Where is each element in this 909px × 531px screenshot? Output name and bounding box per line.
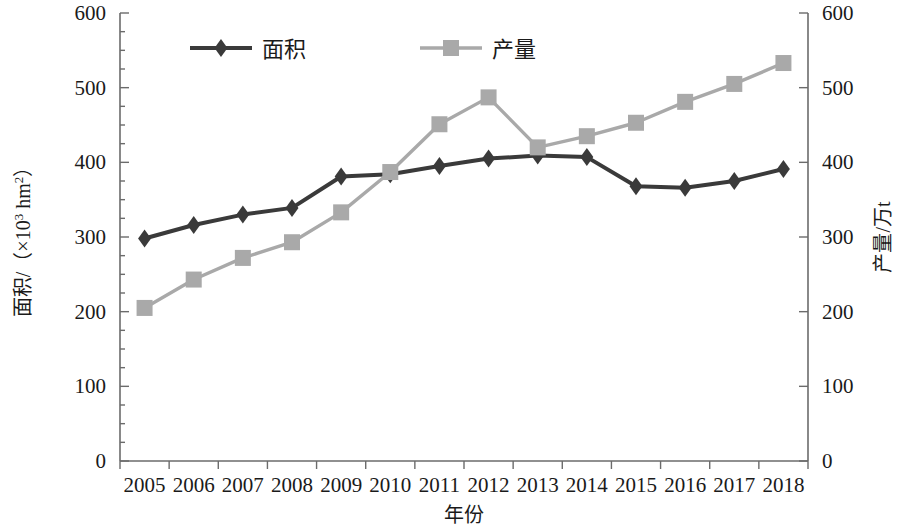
line-chart: 0100200300400500600 0100200300400500600 … [0,0,909,531]
y-tick-label: 500 [75,76,107,100]
legend-label: 面积 [262,37,306,62]
chart-legend: 面积产量 [190,37,536,62]
y-axis-title: 面积/（×103 hm2） [11,157,35,317]
y2-tick-label: 400 [822,150,854,174]
x-tick-label: 2018 [762,473,804,497]
data-point-marker [431,116,447,132]
legend-square-icon [443,40,459,56]
y2-tick-label: 600 [822,1,854,25]
data-point-marker [775,55,791,71]
x-tick-label: 2013 [517,473,559,497]
data-point-marker [482,150,495,168]
y-axis-title-close: ） [12,157,34,177]
legend-label: 产量 [492,37,536,62]
x-tick-label: 2015 [615,473,657,497]
series-line [145,156,784,239]
y-axis-title-unit: hm [12,183,34,214]
x-tick-label: 2017 [713,473,755,497]
y-tick-label: 400 [75,150,107,174]
data-point-marker [580,148,593,166]
x-tick-label: 2012 [468,473,510,497]
axis-titles: 年份面积/（×103 hm2）产量/万t [11,157,895,526]
data-point-marker [777,160,790,178]
data-point-marker [679,179,692,197]
data-point-marker [137,300,153,316]
data-series [137,55,792,316]
data-point-marker [138,229,151,247]
data-point-marker [530,139,546,155]
series-面积 [138,147,790,248]
data-point-marker [335,168,348,186]
y-tick-label: 200 [75,300,107,324]
x-axis-ticks: 2005200620072008200920102011201220132014… [120,461,808,497]
data-point-marker [677,94,693,110]
x-tick-label: 2006 [173,473,215,497]
x-tick-label: 2010 [369,473,411,497]
y-tick-label: 300 [75,225,107,249]
data-point-marker [433,157,446,175]
x-axis-title: 年份 [444,504,484,526]
x-tick-label: 2007 [222,473,264,497]
y-tick-label: 100 [75,374,107,398]
x-tick-label: 2016 [664,473,706,497]
x-tick-label: 2011 [419,473,460,497]
x-tick-label: 2008 [271,473,313,497]
y2-axis-title-group: 产量/万t [872,201,894,273]
data-point-marker [186,272,202,288]
y2-axis-title: 产量/万t [872,201,894,273]
data-point-marker [333,204,349,220]
x-tick-label: 2005 [124,473,166,497]
y-axis-ticks: 0100200300400500600 [75,1,130,473]
chart-container: 0100200300400500600 0100200300400500600 … [0,0,909,531]
data-point-marker [187,216,200,234]
data-point-marker [579,128,595,144]
axes [120,13,808,461]
data-point-marker [628,115,644,131]
data-point-marker [382,164,398,180]
y2-tick-label: 300 [822,225,854,249]
y-axis-title-group: 面积/（×103 hm2） [11,157,35,317]
y2-axis-ticks: 0100200300400500600 [799,1,854,473]
data-point-marker [481,89,497,105]
legend-diamond-icon [215,39,228,57]
x-tick-label: 2009 [320,473,362,497]
data-point-marker [726,76,742,92]
y2-tick-label: 200 [822,300,854,324]
x-tick-label: 2014 [566,473,609,497]
y2-tick-label: 0 [822,449,833,473]
data-point-marker [728,172,741,190]
y-tick-label: 600 [75,1,107,25]
data-point-marker [236,206,249,224]
y-tick-label: 0 [96,449,107,473]
y2-tick-label: 100 [822,374,854,398]
data-point-marker [630,177,643,195]
data-point-marker [235,250,251,266]
data-point-marker [286,199,299,217]
data-point-marker [284,234,300,250]
y2-tick-label: 500 [822,76,854,100]
